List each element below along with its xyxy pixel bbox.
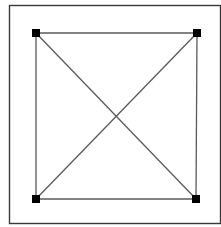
diagram-canvas xyxy=(0,0,221,227)
edge-group xyxy=(36,33,197,199)
node-bottom-right xyxy=(192,195,200,203)
node-bottom-left xyxy=(32,195,40,203)
edge-top-right-bottom-right xyxy=(196,33,197,199)
node-top-right xyxy=(193,29,201,37)
node-top-left xyxy=(32,29,40,37)
